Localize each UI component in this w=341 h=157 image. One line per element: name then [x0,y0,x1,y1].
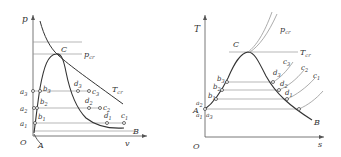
pv-point-a3 [32,90,35,93]
ts-label-a3: a3 [206,111,213,120]
pv-point-b1 [34,122,37,125]
pv-label-c3: c3 [92,88,99,97]
pv-y-axis-label: p [22,14,28,24]
ts-c0-curve [299,91,323,109]
pv-label-b2: b2 [40,98,48,107]
pv-label-d3: d3 [74,80,82,89]
pv-label-d1: d1 [104,112,112,121]
pv-label-b1: b1 [38,113,46,122]
ts-diagram: T s O A B C pcr Tcr a2 a1 a3 b1 b2 b3 d3… [192,12,324,151]
ts-point-d2 [278,89,281,92]
pv-diagram: p v O A B C pcr Tcr a3 b3 d3 c3 a2 b2 d2… [20,14,147,150]
pv-label-C: C [61,45,67,54]
ts-y-axis-label: T [194,24,201,34]
ts-label-b1: b1 [208,92,216,101]
pv-label-a3: a3 [20,88,27,97]
pv-label-a1: a1 [20,120,27,129]
pv-point-c1 [123,122,126,125]
ts-pcr-isobar-1 [248,12,272,52]
pv-tcr-isotherm [40,21,123,104]
pv-label-d2: d2 [85,97,93,106]
ts-label-C: C [233,40,239,49]
pv-label-B: B [132,127,139,136]
ts-label-tcr: Tcr [300,48,311,58]
ts-label-c2: c2 [301,64,308,73]
ts-label-d1: d1 [285,89,293,98]
ts-label-pcr: pcr [280,25,291,35]
pv-origin-label: O [20,138,27,147]
ts-label-B: B [313,118,320,127]
pv-label-a2: a2 [20,105,27,114]
pv-point-a2 [33,107,36,110]
ts-label-a1: a1 [196,111,203,120]
pv-label-c1: c1 [121,112,128,121]
pv-label-A: A [37,141,44,150]
pv-point-d2 [88,107,91,110]
ts-label-c1: c1 [313,72,320,81]
pv-point-c2 [99,107,102,110]
pv-point-d1 [106,122,109,125]
ts-origin-label: O [193,142,200,151]
thermo-diagrams: p v O A B C pcr Tcr a3 b3 d3 c3 a2 b2 d2… [0,0,341,157]
ts-x-axis-label: s [318,140,322,149]
pv-label-pcr: pcr [84,50,95,60]
ts-label-d3: d3 [273,69,281,78]
pv-point-d3 [77,90,80,93]
pv-x-axis-label: v [125,139,130,148]
ts-point-d0 [298,108,301,111]
ts-saturation-curve [205,52,312,120]
pv-label-b3: b3 [43,85,51,94]
ts-point-d1 [286,98,289,101]
pv-point-b2 [36,107,39,110]
ts-label-b2: b2 [213,83,221,92]
ts-point-d3 [272,81,275,84]
pv-point-c3 [88,90,91,93]
ts-label-d2: d2 [280,80,288,89]
ts-label-c3: c3 [283,58,290,67]
ts-label-b3: b3 [217,75,225,84]
pv-point-b3 [39,90,42,93]
ts-point-b2 [221,89,224,92]
ts-point-b3 [226,81,229,84]
pv-label-tcr: Tcr [112,85,123,95]
